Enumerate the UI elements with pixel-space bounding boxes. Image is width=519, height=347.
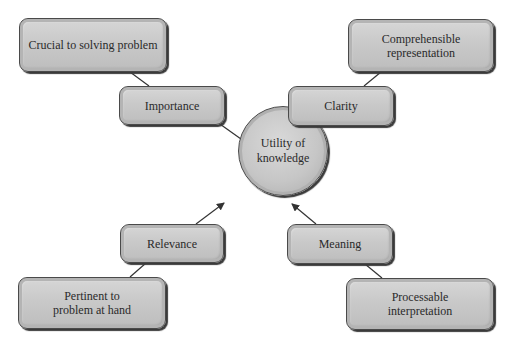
node-relevance: Relevance <box>120 224 224 263</box>
node-label-clarity: Clarity <box>324 99 357 113</box>
line-processable-meaning <box>365 264 382 278</box>
arrow-relevance-hub <box>196 203 224 224</box>
detail-label-clarity-line2: representation <box>382 46 461 60</box>
arrow-meaning-hub <box>292 204 316 224</box>
detail-label-meaning-line1: Processable <box>388 290 453 304</box>
detail-box-relevance: Pertinent to problem at hand <box>18 277 166 329</box>
line-pertinent-relevance <box>130 263 146 277</box>
line-crucial-importance <box>130 72 149 86</box>
detail-label-importance: Crucial to solving problem <box>29 38 158 52</box>
hub-label-line1: Utility of <box>261 136 305 150</box>
line-comprehensible-clarity <box>364 72 381 86</box>
detail-box-clarity: Comprehensible representation <box>348 19 494 72</box>
detail-box-meaning: Processable interpretation <box>346 278 494 330</box>
node-importance: Importance <box>119 86 225 125</box>
hub-label-line2: knowledge <box>257 151 310 165</box>
node-meaning: Meaning <box>287 224 393 264</box>
detail-label-meaning-line2: interpretation <box>388 304 453 318</box>
node-clarity: Clarity <box>288 86 394 126</box>
node-label-importance: Importance <box>145 99 200 113</box>
detail-label-clarity-line1: Comprehensible <box>382 32 461 46</box>
concept-diagram: Utility of knowledge Crucial to solving … <box>0 0 519 347</box>
node-label-relevance: Relevance <box>147 237 197 251</box>
detail-label-relevance-line1: Pertinent to <box>53 289 131 303</box>
node-label-meaning: Meaning <box>319 237 362 251</box>
detail-label-relevance-line2: problem at hand <box>53 303 131 317</box>
detail-box-importance: Crucial to solving problem <box>19 18 167 72</box>
